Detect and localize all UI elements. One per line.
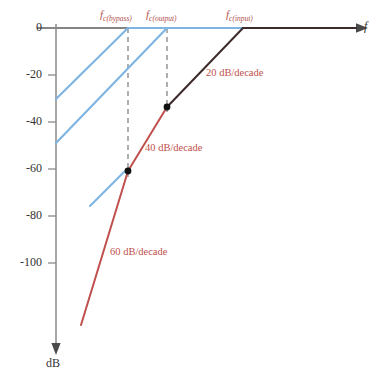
bode-plot-canvas bbox=[0, 0, 379, 379]
annotation-60db-per-decade: 60 dB/decade bbox=[110, 247, 167, 258]
x-axis-title: f bbox=[364, 20, 367, 32]
label-fc-output-subscript: c(output) bbox=[149, 14, 177, 23]
y-tick-label-minus80: -80 bbox=[8, 209, 42, 221]
label-fc-input: fc(input) bbox=[226, 9, 253, 23]
label-fc-input-subscript: c(input) bbox=[229, 14, 253, 23]
y-axis-title: dB bbox=[46, 357, 60, 369]
y-axis-arrow-icon bbox=[51, 343, 60, 355]
critical-frequency-guides bbox=[128, 28, 167, 180]
y-tick-label-0: 0 bbox=[8, 21, 42, 33]
bypass-asymptote-line bbox=[56, 28, 243, 99]
annotation-20db-per-decade: 20 dB/decade bbox=[206, 68, 263, 79]
segment-40db-per-decade bbox=[128, 107, 167, 171]
breakpoint-marker-fc-output bbox=[164, 104, 171, 111]
y-tick-label-minus60: -60 bbox=[8, 162, 42, 174]
label-fc-bypass: fc(bypass) bbox=[100, 9, 132, 23]
y-tick-label-minus20: -20 bbox=[8, 68, 42, 80]
y-tick-marks bbox=[48, 28, 56, 263]
label-fc-output: fc(output) bbox=[146, 9, 177, 23]
label-fc-bypass-subscript: c(bypass) bbox=[103, 14, 132, 23]
y-tick-label-minus40: -40 bbox=[8, 115, 42, 127]
annotation-40db-per-decade: 40 dB/decade bbox=[145, 143, 202, 154]
y-tick-label-minus100: -100 bbox=[4, 256, 42, 268]
bode-plot: 0 -20 -40 -60 -80 -100 f dB fc(bypass) f… bbox=[0, 0, 379, 379]
breakpoint-marker-fc-bypass bbox=[125, 168, 132, 175]
